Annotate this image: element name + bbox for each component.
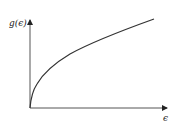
density-of-states-plot: g(ϵ) ϵ [0, 0, 179, 123]
sqrt-curve [30, 19, 154, 108]
y-axis-label: g(ϵ) [9, 18, 27, 28]
x-axis-label: ϵ [163, 113, 168, 123]
